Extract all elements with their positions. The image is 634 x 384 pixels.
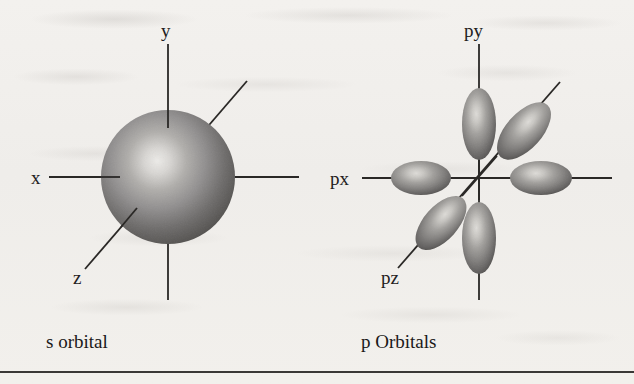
p-axis-label-pz: pz bbox=[381, 268, 399, 287]
p-lobe-px-positive bbox=[510, 161, 572, 195]
p-lobe-px-negative bbox=[391, 161, 451, 195]
p-axis-label-px: px bbox=[330, 169, 349, 188]
p-lobe-pz-positive bbox=[487, 93, 561, 169]
s-axis-label-z: z bbox=[73, 268, 81, 287]
s-axis-label-y: y bbox=[161, 21, 171, 40]
s-orbital-caption: s orbital bbox=[46, 332, 108, 351]
p-lobe-py-negative bbox=[462, 202, 496, 274]
orbital-diagram-drawing bbox=[0, 0, 634, 384]
s-orbital-group bbox=[49, 44, 299, 300]
p-orbitals-caption: p Orbitals bbox=[361, 332, 436, 351]
p-orbitals-group bbox=[362, 44, 612, 300]
s-axis-label-x: x bbox=[31, 168, 41, 187]
p-axis-label-py: py bbox=[464, 21, 483, 40]
s-orbital-sphere-grain bbox=[101, 110, 235, 244]
p-lobe-py-positive bbox=[462, 88, 496, 160]
orbital-diagram-figure: y x z py px pz s orbital p Orbitals bbox=[0, 0, 634, 384]
bottom-horizontal-rule bbox=[0, 371, 634, 373]
